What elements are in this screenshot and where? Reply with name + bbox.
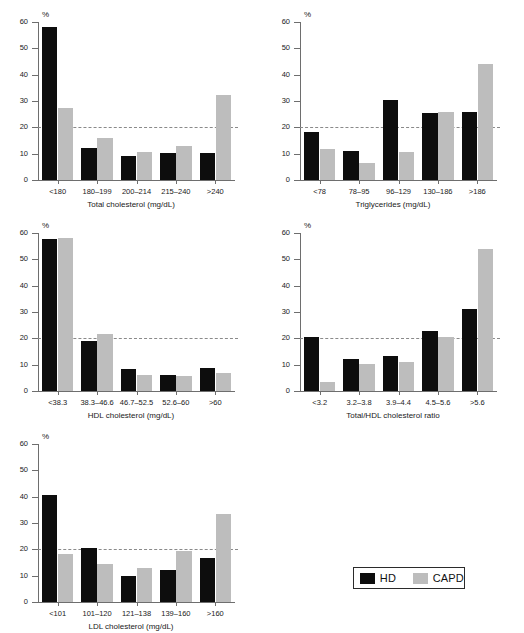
- bar-capd: [399, 362, 415, 391]
- y-axis-tick-label: 50: [6, 255, 28, 263]
- bar-capd: [176, 376, 192, 391]
- x-axis-tick: [477, 391, 478, 395]
- x-axis-tick: [58, 391, 59, 395]
- bar-hd: [81, 548, 97, 602]
- bar-hd: [383, 356, 399, 391]
- y-axis-tick-label: 60: [6, 229, 28, 237]
- bar-hd: [343, 359, 359, 391]
- y-axis-tick-label: 20: [268, 334, 290, 342]
- x-axis-tick: [137, 180, 138, 184]
- bar-capd: [359, 364, 375, 391]
- x-axis-tick: [97, 391, 98, 395]
- y-axis-unit-label: %: [42, 432, 49, 441]
- y-axis-tick-label: 10: [6, 572, 28, 580]
- x-axis-tick-label: >240: [187, 187, 243, 196]
- y-axis-tick: [294, 180, 300, 181]
- y-axis-tick-label: 10: [6, 361, 28, 369]
- y-axis-tick-label: 0: [268, 387, 290, 395]
- y-axis-unit-label: %: [42, 10, 49, 19]
- bar-capd: [320, 382, 336, 391]
- bar-hd: [160, 375, 176, 391]
- x-axis-title: HDL cholesterol (mg/dL): [0, 411, 262, 420]
- y-axis-tick-label: 20: [268, 123, 290, 131]
- legend-label-capd: CAPD: [433, 572, 464, 584]
- x-axis-tick: [477, 180, 478, 184]
- x-axis-tick-label: >160: [187, 609, 243, 618]
- bar-hd: [121, 576, 137, 602]
- x-axis-tick: [137, 391, 138, 395]
- x-axis-tick: [438, 391, 439, 395]
- y-axis-tick-label: 40: [6, 493, 28, 501]
- bars-layer: [300, 233, 497, 391]
- bar-capd: [438, 112, 454, 180]
- bar-capd: [58, 108, 74, 180]
- bar-capd: [58, 238, 74, 391]
- y-axis-tick-label: 40: [268, 71, 290, 79]
- legend-swatch-hd: [360, 573, 375, 584]
- y-axis-tick-label: 30: [6, 308, 28, 316]
- x-axis-tick: [320, 180, 321, 184]
- bar-hd: [343, 151, 359, 180]
- y-axis-tick-label: 60: [268, 229, 290, 237]
- bar-capd: [97, 334, 113, 391]
- bar-hd: [200, 368, 216, 391]
- bar-capd: [359, 163, 375, 180]
- bars-layer: [38, 444, 235, 602]
- y-axis-tick-label: 50: [268, 255, 290, 263]
- y-axis-tick-label: 60: [6, 18, 28, 26]
- bar-hd: [81, 341, 97, 391]
- bar-hd: [42, 27, 58, 180]
- y-axis-tick-label: 30: [268, 97, 290, 105]
- y-axis-tick-label: 50: [268, 44, 290, 52]
- bar-capd: [97, 564, 113, 602]
- legend-label-hd: HD: [380, 572, 396, 584]
- bar-hd: [160, 570, 176, 602]
- y-axis-tick-label: 20: [6, 334, 28, 342]
- legend: HD CAPD: [353, 567, 465, 589]
- x-axis-tick: [97, 180, 98, 184]
- bar-capd: [97, 138, 113, 180]
- y-axis-tick-label: 10: [6, 150, 28, 158]
- y-axis-tick-label: 50: [6, 44, 28, 52]
- y-axis-unit-label: %: [42, 221, 49, 230]
- y-axis-tick-label: 40: [6, 71, 28, 79]
- bar-capd: [478, 64, 494, 180]
- bar-hd: [383, 100, 399, 180]
- bar-capd: [216, 95, 232, 180]
- x-axis-tick: [176, 180, 177, 184]
- x-axis-tick-label: >5.6: [449, 398, 505, 407]
- bars-layer: [38, 233, 235, 391]
- bar-capd: [320, 149, 336, 180]
- y-axis-tick-label: 0: [6, 176, 28, 184]
- chart-panel-triglycerides: %0102030405060<7878–9596–129130–186>186T…: [262, 0, 524, 211]
- x-axis-tick: [176, 391, 177, 395]
- y-axis-tick-label: 40: [6, 282, 28, 290]
- chart-panel-ldl-cholesterol: %0102030405060<101101–120121–138139–160>…: [0, 422, 262, 633]
- x-axis-tick: [137, 602, 138, 606]
- y-axis-tick-label: 30: [6, 97, 28, 105]
- bar-capd: [399, 152, 415, 180]
- y-axis-tick: [32, 180, 38, 181]
- x-axis-title: Total/HDL cholesterol ratio: [262, 411, 524, 420]
- bar-capd: [137, 152, 153, 180]
- bars-layer: [300, 22, 497, 180]
- bar-capd: [58, 554, 74, 602]
- bar-hd: [462, 112, 478, 180]
- x-axis-tick: [359, 180, 360, 184]
- y-axis-tick-label: 50: [6, 466, 28, 474]
- y-axis-tick: [32, 602, 38, 603]
- x-axis-tick: [58, 180, 59, 184]
- bar-hd: [42, 495, 58, 602]
- x-axis-tick: [399, 391, 400, 395]
- bar-hd: [422, 331, 438, 391]
- x-axis-title: Total cholesterol (mg/dL): [0, 200, 262, 209]
- bar-hd: [121, 156, 137, 180]
- y-axis-tick-label: 10: [268, 361, 290, 369]
- bar-hd: [160, 153, 176, 180]
- x-axis-tick: [438, 180, 439, 184]
- bar-hd: [462, 309, 478, 391]
- y-axis-unit-label: %: [304, 221, 311, 230]
- x-axis-tick: [359, 391, 360, 395]
- bar-capd: [176, 146, 192, 180]
- x-axis-tick: [215, 602, 216, 606]
